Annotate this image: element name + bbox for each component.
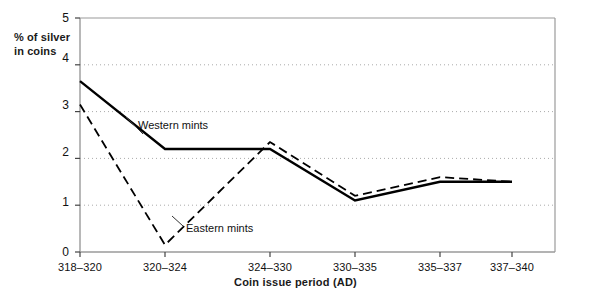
y-tick-0: 0 (47, 245, 69, 259)
x-tick-330-335: 330–335 (310, 261, 400, 273)
gridlines-group (80, 65, 555, 205)
x-tick-318-320: 318–320 (35, 261, 125, 273)
y-tick-1: 1 (47, 195, 69, 209)
silver-content-line-chart: % of silverin coins 5 4 3 2 1 0 318–320 … (0, 0, 591, 301)
data-series-group (80, 81, 512, 245)
axis-ticks-group (75, 18, 512, 257)
series-line-western-mints (80, 81, 512, 200)
y-tick-2: 2 (47, 145, 69, 159)
y-axis-title-line1: % of silver (14, 31, 70, 43)
x-tick-337-340: 337–340 (467, 261, 557, 273)
y-tick-4: 4 (47, 51, 69, 65)
plot-area (0, 0, 591, 301)
axis-frame (80, 18, 555, 252)
y-tick-5: 5 (47, 11, 69, 25)
series-label-western-mints: Western mints (138, 119, 208, 131)
x-axis-title: Coin issue period (AD) (0, 276, 591, 288)
series-label-eastern-mints: Eastern mints (186, 222, 253, 234)
leader-line-eastern (172, 216, 183, 226)
annotation-leader-lines (126, 117, 183, 226)
y-tick-3: 3 (47, 98, 69, 112)
x-tick-320-324: 320–324 (120, 261, 210, 273)
x-tick-324-330: 324–330 (225, 261, 315, 273)
